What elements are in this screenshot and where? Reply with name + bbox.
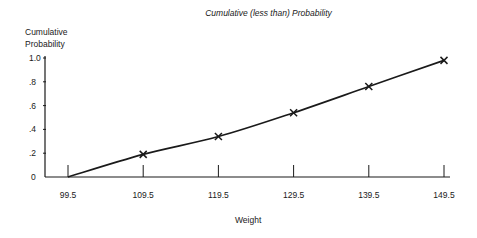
x-tick-label: 99.5	[60, 190, 77, 200]
x-tick-label: 139.5	[358, 190, 380, 200]
y-tick-label: 1.0	[29, 53, 41, 63]
y-tick-label: .8	[29, 77, 36, 87]
x-tick-label: 109.5	[133, 190, 155, 200]
data-point-x-marker	[365, 83, 372, 90]
y-tick-label: 0	[31, 172, 36, 182]
x-tick-label: 149.5	[433, 190, 455, 200]
cumulative-probability-curve	[68, 60, 444, 177]
y-tick-label: .2	[29, 148, 36, 158]
data-point-x-marker	[441, 57, 448, 64]
y-tick-label: .6	[29, 101, 36, 111]
y-tick-label: .4	[29, 124, 36, 134]
x-tick-label: 129.5	[283, 190, 305, 200]
x-tick-label: 119.5	[208, 190, 229, 200]
chart-plot-area: 0.2.4.6.81.099.5109.5119.5129.5139.5149.…	[0, 0, 477, 238]
